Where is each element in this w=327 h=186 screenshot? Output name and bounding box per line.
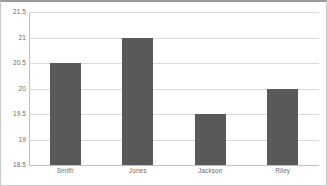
y-axis-tick-label: 19.5 bbox=[2, 111, 26, 118]
y-axis-tick-label: 21.5 bbox=[2, 9, 26, 16]
bar[interactable] bbox=[122, 38, 153, 166]
y-axis-tick-label: 20.5 bbox=[2, 60, 26, 67]
bar[interactable] bbox=[195, 114, 226, 165]
x-axis-tick-label: Jackson bbox=[198, 168, 223, 175]
gridline bbox=[29, 165, 319, 166]
x-axis-tick-labels: SmithJonesJacksonRiley bbox=[29, 168, 319, 184]
x-axis-tick-label: Jones bbox=[129, 168, 147, 175]
bar[interactable] bbox=[267, 89, 298, 166]
bar-series bbox=[29, 12, 319, 165]
y-axis-tick-label: 18.5 bbox=[2, 162, 26, 169]
y-axis-tick-labels: 18.51919.52020.52121.5 bbox=[1, 12, 26, 165]
bar[interactable] bbox=[50, 63, 81, 165]
x-axis-tick-label: Riley bbox=[275, 168, 290, 175]
y-axis-tick-label: 21 bbox=[2, 34, 26, 41]
y-axis-tick-label: 20 bbox=[2, 85, 26, 92]
y-axis-tick-label: 19 bbox=[2, 136, 26, 143]
x-axis-tick-label: Smith bbox=[57, 168, 74, 175]
chart-frame: 18.51919.52020.52121.5 SmithJonesJackson… bbox=[0, 0, 327, 186]
